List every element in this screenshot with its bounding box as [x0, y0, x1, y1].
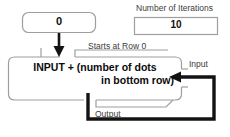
output-label-bracket	[96, 100, 173, 107]
output-label: Output	[95, 110, 121, 119]
iterations-label: Number of Iterations	[136, 4, 213, 13]
starts-at-row-label: Starts at Row 0	[88, 42, 146, 51]
process-text-line1: INPUT + (number of dots	[33, 61, 156, 73]
iterations-value[interactable]: 10	[134, 19, 218, 30]
arrow-down-icon	[54, 46, 65, 57]
input-label: Input	[189, 60, 208, 69]
accumulator-value[interactable]: 0	[22, 15, 96, 27]
starts-at-row-bracket	[75, 50, 168, 57]
process-text-line2: in bottom row)	[12, 74, 178, 87]
diagram-canvas: 0 Number of Iterations 10 Starts at Row …	[0, 0, 230, 137]
process-box-edge-bottom-right	[96, 87, 182, 100]
process-box-text: INPUT + (number of dots in bottom row)	[12, 61, 178, 87]
